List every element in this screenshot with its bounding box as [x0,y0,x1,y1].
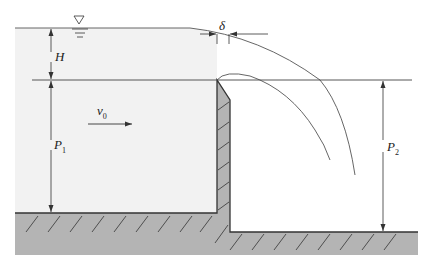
p1-label: P1 [54,138,66,155]
v0-label: v0 [97,104,107,121]
p2-label: P2 [387,140,399,157]
upstream-water [15,28,217,213]
weir-diagram: H P1 P2 v0 δ [0,0,429,268]
delta-label: δ [219,19,225,32]
diagram-graphics [0,0,429,268]
head-label: H [55,50,64,63]
nappe-lower-surface [217,74,330,160]
